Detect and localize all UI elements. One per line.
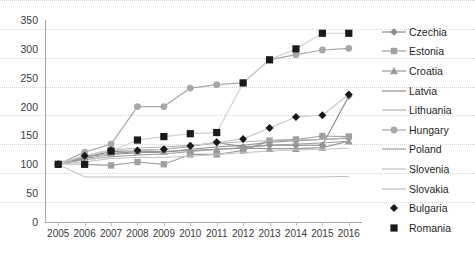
legend-label: Slovenia: [409, 163, 449, 175]
legend-label: Latvia: [409, 85, 437, 97]
data-point-square: [134, 159, 140, 165]
series-lithuania: [58, 138, 349, 165]
data-point-square-filled: [187, 130, 194, 137]
legend-label: Croatia: [409, 65, 443, 77]
legend-item-slovakia[interactable]: Slovakia: [382, 179, 474, 199]
data-point-square-filled: [134, 136, 141, 143]
legend-item-czechia[interactable]: Czechia: [382, 22, 474, 42]
legend-marker-poland-icon: [382, 142, 406, 156]
legend-item-romania[interactable]: Romania: [382, 218, 474, 238]
legend-item-estonia[interactable]: Estonia: [382, 42, 474, 62]
data-point-square-filled: [292, 45, 299, 52]
data-point-diamond-filled: [213, 138, 221, 146]
legend-item-latvia[interactable]: Latvia: [382, 81, 474, 101]
legend-item-poland[interactable]: Poland: [382, 140, 474, 160]
data-point-circle: [319, 47, 326, 54]
data-point-square-filled: [81, 161, 88, 168]
data-point-square-filled: [319, 30, 326, 37]
legend-item-bulgaria[interactable]: Bulgaria: [382, 198, 474, 218]
legend-marker-hungary-icon: [382, 123, 406, 137]
data-point-square-filled: [266, 56, 273, 63]
data-point-square-filled: [107, 147, 114, 154]
series-line: [58, 48, 349, 164]
data-point-diamond-filled: [266, 124, 274, 132]
line-chart: 050100150200250300350 200520062007200820…: [0, 0, 475, 258]
data-point-square-filled: [240, 79, 247, 86]
legend-marker-lithuania-icon: [382, 103, 406, 117]
legend-marker-slovakia-icon: [382, 182, 406, 196]
series-latvia: [58, 138, 349, 164]
legend-item-lithuania[interactable]: Lithuania: [382, 100, 474, 120]
data-point-diamond-filled: [390, 204, 398, 212]
data-point-square-filled: [55, 161, 62, 168]
data-point-square: [293, 136, 299, 142]
legend-marker-slovenia-icon: [382, 162, 406, 176]
data-point-square: [108, 162, 114, 168]
data-point-circle: [134, 103, 141, 110]
data-point-square-filled: [160, 133, 167, 140]
data-point-square-filled: [390, 224, 397, 231]
legend-item-croatia[interactable]: Croatia: [382, 61, 474, 81]
legend-marker-croatia-icon: [382, 64, 406, 78]
series-line: [58, 138, 349, 164]
data-point-diamond-filled: [292, 113, 300, 121]
legend-label: Romania: [409, 222, 451, 234]
legend-marker-estonia-icon: [382, 44, 406, 58]
series-line: [58, 138, 349, 165]
data-point-circle: [160, 103, 167, 110]
series-line: [58, 164, 349, 177]
legend-label: Czechia: [409, 26, 447, 38]
data-point-square-filled: [213, 129, 220, 136]
legend-label: Estonia: [409, 45, 444, 57]
legend-item-slovenia[interactable]: Slovenia: [382, 159, 474, 179]
legend-label: Slovakia: [409, 183, 449, 195]
data-point-diamond: [390, 28, 398, 36]
series-slovakia: [58, 164, 349, 177]
data-point-circle: [391, 126, 398, 133]
data-point-square-filled: [345, 30, 352, 37]
chart-legend: CzechiaEstoniaCroatiaLatviaLithuaniaHung…: [382, 22, 474, 238]
legend-marker-bulgaria-icon: [382, 201, 406, 215]
data-point-square: [391, 48, 397, 54]
legend-marker-latvia-icon: [382, 84, 406, 98]
legend-label: Bulgaria: [409, 202, 448, 214]
legend-label: Lithuania: [409, 104, 452, 116]
data-point-circle: [187, 85, 194, 92]
legend-label: Hungary: [409, 124, 449, 136]
data-point-circle: [213, 81, 220, 88]
legend-marker-czechia-icon: [382, 25, 406, 39]
legend-label: Poland: [409, 143, 442, 155]
legend-item-hungary[interactable]: Hungary: [382, 120, 474, 140]
data-point-circle: [345, 45, 352, 52]
legend-marker-romania-icon: [382, 221, 406, 235]
data-point-square: [161, 161, 167, 167]
data-point-square: [319, 133, 325, 139]
